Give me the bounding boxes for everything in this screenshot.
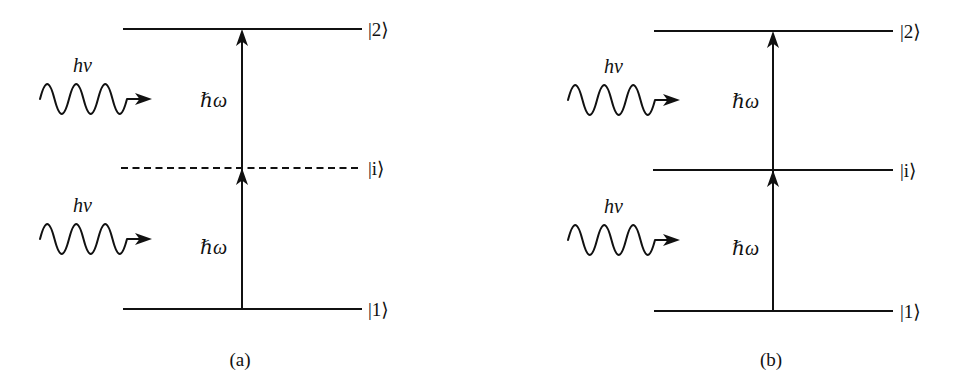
photon-upper-label: hν (604, 55, 623, 77)
level-1-label: |1⟩ (900, 301, 921, 322)
transition-lower-label: ℏω (200, 236, 227, 258)
level-1-label: |1⟩ (368, 299, 389, 320)
level-i-label: |i⟩ (368, 158, 385, 179)
photon-upper-label: hν (73, 54, 92, 76)
level-2-label: |2⟩ (900, 21, 921, 42)
panel-caption: (b) (760, 349, 782, 371)
photon-lower-label: hν (73, 194, 92, 216)
transition-lower-label: ℏω (732, 237, 759, 259)
transition-upper-label: ℏω (732, 90, 759, 112)
level-2-label: |2⟩ (368, 19, 389, 40)
transition-upper-label: ℏω (200, 89, 227, 111)
level-i-label: |i⟩ (900, 160, 917, 181)
photon-lower-label: hν (604, 195, 623, 217)
panel-caption: (a) (229, 349, 250, 371)
background (0, 0, 958, 392)
energy-level-diagram: |2⟩ |i⟩ |1⟩ ℏω ℏω hν hν (a) |2⟩ |i⟩ |1⟩ … (0, 0, 958, 392)
